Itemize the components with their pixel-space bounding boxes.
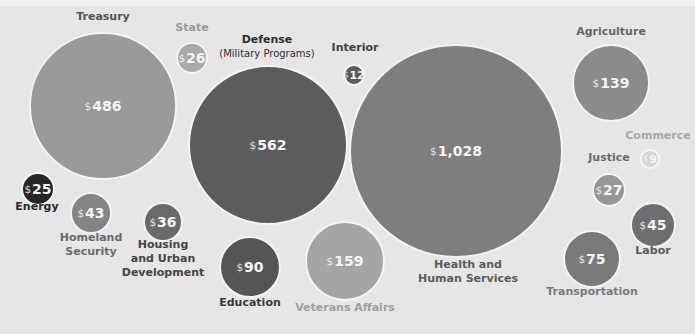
bubble-interior: $12 bbox=[343, 64, 365, 86]
currency-symbol: $ bbox=[178, 52, 185, 64]
label-line: Health and bbox=[418, 258, 518, 272]
label-line: Justice bbox=[588, 151, 629, 165]
currency-symbol: $ bbox=[578, 253, 585, 265]
bubble-state: $26 bbox=[176, 42, 208, 74]
label-line: Human Services bbox=[418, 272, 518, 286]
label-agriculture: Agriculture bbox=[576, 25, 646, 39]
bubble-value: 90 bbox=[244, 259, 263, 275]
label-line: Defense bbox=[219, 33, 314, 47]
currency-symbol: $ bbox=[327, 255, 334, 267]
currency-symbol: $ bbox=[595, 184, 602, 196]
bubble-value: 1,028 bbox=[438, 143, 482, 159]
label-defense: Defense(Military Programs) bbox=[219, 33, 314, 61]
label-justice: Justice bbox=[588, 151, 629, 165]
bubble-commerce: $9 bbox=[640, 149, 660, 169]
label-energy: Energy bbox=[15, 200, 58, 214]
label-line: Interior bbox=[332, 41, 379, 55]
bubble-value: 12 bbox=[349, 69, 364, 82]
label-homeland-security: HomelandSecurity bbox=[60, 231, 123, 259]
bubble-defense: $562 bbox=[188, 65, 348, 225]
label-commerce: Commerce bbox=[625, 129, 690, 143]
label-transportation: Transportation bbox=[546, 285, 637, 299]
label-line: Housing bbox=[122, 238, 204, 252]
label-line: Development bbox=[122, 266, 204, 280]
currency-symbol: $ bbox=[643, 154, 648, 164]
bubble-value: 139 bbox=[600, 75, 629, 91]
currency-symbol: $ bbox=[250, 139, 257, 151]
label-line: Transportation bbox=[546, 285, 637, 299]
bubble-value: 486 bbox=[92, 98, 121, 114]
label-line: Labor bbox=[635, 244, 670, 258]
bubble-health-and-human-services: $1,028 bbox=[349, 44, 563, 258]
bubble-value: 26 bbox=[186, 50, 205, 66]
currency-symbol: $ bbox=[85, 100, 92, 112]
currency-symbol: $ bbox=[430, 145, 437, 157]
bubble-education: $90 bbox=[219, 236, 281, 298]
label-line: Veterans Affairs bbox=[295, 301, 395, 315]
label-line: and Urban bbox=[122, 252, 204, 266]
label-line: Homeland bbox=[60, 231, 123, 245]
currency-symbol: $ bbox=[593, 77, 600, 89]
bubble-value: 25 bbox=[32, 181, 51, 197]
currency-symbol: $ bbox=[149, 216, 156, 228]
bubble-value: 43 bbox=[85, 205, 104, 221]
label-treasury: Treasury bbox=[76, 10, 130, 24]
label-health-and-human-services: Health andHuman Services bbox=[418, 258, 518, 286]
bubble-value: 159 bbox=[334, 253, 363, 269]
bubble-value: 75 bbox=[586, 251, 605, 267]
currency-symbol: $ bbox=[343, 70, 348, 80]
label-line: Agriculture bbox=[576, 25, 646, 39]
sublabel: (Military Programs) bbox=[219, 47, 314, 61]
bubble-value: 562 bbox=[257, 137, 286, 153]
bubble-value: 45 bbox=[647, 217, 666, 233]
label-veterans-affairs: Veterans Affairs bbox=[295, 301, 395, 315]
bubble-value: 9 bbox=[649, 153, 657, 166]
label-housing-and-urban-development: Housingand UrbanDevelopment bbox=[122, 238, 204, 280]
label-line: Treasury bbox=[76, 10, 130, 24]
label-line: Energy bbox=[15, 200, 58, 214]
currency-symbol: $ bbox=[236, 261, 243, 273]
bubble-value: 27 bbox=[603, 182, 622, 198]
label-line: State bbox=[175, 21, 208, 35]
label-line: Security bbox=[60, 245, 123, 259]
label-education: Education bbox=[219, 296, 281, 310]
bubble-agriculture: $139 bbox=[572, 44, 650, 122]
bubble-treasury: $486 bbox=[29, 32, 177, 180]
top-band bbox=[0, 0, 695, 6]
bubble-labor: $45 bbox=[630, 202, 676, 248]
bubble-transportation: $75 bbox=[563, 230, 621, 288]
currency-symbol: $ bbox=[24, 183, 31, 195]
label-line: Commerce bbox=[625, 129, 690, 143]
label-state: State bbox=[175, 21, 208, 35]
label-interior: Interior bbox=[332, 41, 379, 55]
label-line: Education bbox=[219, 296, 281, 310]
bubble-justice: $27 bbox=[592, 173, 626, 207]
currency-symbol: $ bbox=[77, 207, 84, 219]
bubble-homeland-security: $43 bbox=[70, 192, 112, 234]
bubble-housing-and-urban-development: $36 bbox=[143, 202, 183, 242]
bubble-veterans-affairs: $159 bbox=[305, 221, 385, 301]
currency-symbol: $ bbox=[639, 219, 646, 231]
bubble-value: 36 bbox=[157, 214, 176, 230]
label-labor: Labor bbox=[635, 244, 670, 258]
